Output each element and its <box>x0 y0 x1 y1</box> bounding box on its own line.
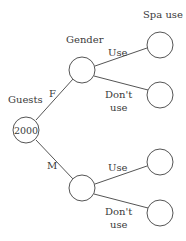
male-dontuse-node <box>147 200 173 226</box>
column-header-gender: Gender <box>66 34 104 45</box>
female-use-label: Use <box>108 47 128 58</box>
male-node <box>69 175 95 201</box>
column-header-spa: Spa use <box>143 9 183 20</box>
male-use-node <box>147 149 173 175</box>
female-dontuse-node <box>147 82 173 108</box>
column-header-guests: Guests <box>8 94 43 105</box>
male-use-label: Use <box>108 162 128 173</box>
root-value: 2000 <box>14 125 38 136</box>
male-dontuse-label-line1: Don't <box>105 206 132 217</box>
male-dontuse-label-line2: use <box>110 219 128 230</box>
female-dontuse-label-line1: Don't <box>105 89 132 100</box>
female-use-node <box>147 32 173 58</box>
tree-diagram: Guests Gender Spa use 2000 F M Use Don't… <box>0 0 186 241</box>
female-node <box>69 57 95 83</box>
branch-label-female: F <box>49 88 56 99</box>
edge-female-dontuse <box>94 76 148 90</box>
female-dontuse-label-line2: use <box>110 102 128 113</box>
branch-label-male: M <box>47 160 57 171</box>
